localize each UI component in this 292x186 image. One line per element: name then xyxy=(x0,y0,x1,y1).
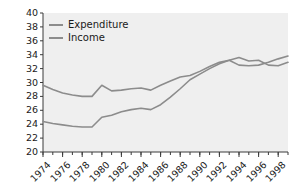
legend-label-income: Income xyxy=(68,32,105,43)
chart-container: 4038363432302826242220 19741976197819801… xyxy=(0,0,292,186)
x-axis-tick-labels: 1974197619781980198219841986198819901992… xyxy=(0,0,292,186)
legend-line-swatch-income xyxy=(49,37,63,39)
legend-item-expenditure: Expenditure xyxy=(49,18,129,31)
legend-label-expenditure: Expenditure xyxy=(68,19,129,30)
legend-item-income: Income xyxy=(49,31,129,44)
chart-legend: Expenditure Income xyxy=(49,18,129,44)
legend-line-swatch-expenditure xyxy=(49,24,63,26)
